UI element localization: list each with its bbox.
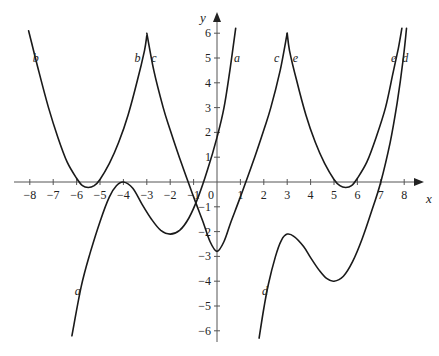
y-axis-label: y xyxy=(198,10,206,25)
x-tick-label: −3 xyxy=(140,188,153,202)
x-tick-label: −4 xyxy=(117,188,130,202)
y-tick-label: −3 xyxy=(198,249,211,263)
x-tick-label: 3 xyxy=(284,188,290,202)
curve-label-b: b xyxy=(33,51,39,65)
x-tick-label: −6 xyxy=(70,188,83,202)
curve-label-a: a xyxy=(234,51,240,65)
y-tick-label: 4 xyxy=(205,76,211,90)
curve-label-a: a xyxy=(75,284,81,298)
x-tick-label: 2 xyxy=(261,188,267,202)
curve-label-c: c xyxy=(151,51,157,65)
function-graph-chart: −8−7−6−5−4−3−2−1012345678−6−5−4−3−2−1123… xyxy=(0,0,439,356)
x-tick-label: 5 xyxy=(331,188,337,202)
y-tick-label: −4 xyxy=(198,274,211,288)
curve-label-c: c xyxy=(274,51,280,65)
x-tick-label: 4 xyxy=(308,188,314,202)
y-tick-label: 3 xyxy=(205,101,211,115)
curve-label-e: e xyxy=(293,51,299,65)
x-tick-label: 8 xyxy=(401,188,407,202)
curve-label-d: d xyxy=(402,51,409,65)
y-tick-label: −1 xyxy=(198,200,211,214)
x-tick-label: −5 xyxy=(94,188,107,202)
y-tick-label: −6 xyxy=(198,324,211,338)
x-tick-label: 6 xyxy=(354,188,360,202)
y-tick-label: 5 xyxy=(205,51,211,65)
y-tick-label: 2 xyxy=(205,125,211,139)
y-tick-label: −5 xyxy=(198,299,211,313)
curves xyxy=(29,28,407,338)
y-tick-label: 6 xyxy=(205,26,211,40)
curve-label-d: d xyxy=(262,284,269,298)
curve-label-e: e xyxy=(391,51,397,65)
curve-d xyxy=(259,28,406,338)
curve-label-b: b xyxy=(134,51,140,65)
x-axis-arrow-icon xyxy=(414,178,424,186)
x-tick-label: −8 xyxy=(23,188,36,202)
x-tick-label: −2 xyxy=(164,188,177,202)
y-axis-arrow-icon xyxy=(213,12,221,22)
x-axis-label: x xyxy=(425,191,432,206)
x-tick-label: −7 xyxy=(47,188,60,202)
curve-b xyxy=(29,31,147,188)
